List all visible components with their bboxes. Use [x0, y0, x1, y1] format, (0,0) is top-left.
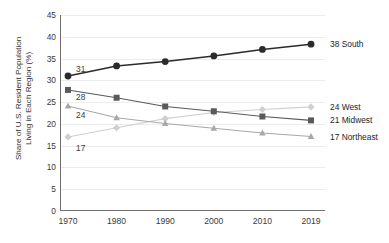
- data-point-west: [64, 133, 71, 140]
- y-axis-tick-label: 20: [30, 119, 56, 129]
- y-axis-title-line-1: Share of U.S. Resident Population: [14, 8, 24, 188]
- data-point-south: [210, 53, 217, 60]
- y-axis-tick-label: 25: [30, 97, 56, 107]
- y-axis-tick-label: 10: [30, 162, 56, 172]
- plot-area: [60, 15, 325, 211]
- data-point-midwest: [308, 117, 314, 123]
- x-axis-tick-label: 2010: [239, 216, 285, 226]
- x-axis-tick-label: 1970: [45, 216, 91, 226]
- data-point-midwest: [162, 103, 168, 109]
- data-point-south: [65, 73, 72, 80]
- data-point-south: [308, 41, 315, 48]
- start-value-label-west: 17: [76, 143, 85, 153]
- y-axis-tick-label: 15: [30, 141, 56, 151]
- legend-item-northeast[interactable]: 17 Northeast: [330, 132, 378, 142]
- data-point-northeast: [65, 103, 72, 109]
- legend-item-midwest[interactable]: 21 Midwest: [330, 115, 372, 125]
- x-axis-tick-label: 2000: [191, 216, 237, 226]
- data-point-south: [113, 63, 120, 70]
- data-point-midwest: [211, 108, 217, 114]
- series-layer: [60, 15, 325, 211]
- data-point-west: [113, 124, 120, 131]
- series-line-northeast: [68, 106, 311, 136]
- data-point-midwest: [259, 113, 265, 119]
- legend-item-west[interactable]: 24 West: [330, 102, 361, 112]
- y-axis-tick-label: 35: [30, 54, 56, 64]
- start-value-label-south: 31: [76, 64, 85, 74]
- data-point-midwest: [65, 87, 71, 93]
- x-axis-tick-label: 1980: [94, 216, 140, 226]
- y-axis-tick-label: 30: [30, 75, 56, 85]
- data-point-south: [259, 46, 266, 53]
- start-value-label-northeast: 24: [76, 110, 85, 120]
- y-axis-tick-label: 45: [30, 10, 56, 20]
- data-point-west: [259, 106, 266, 113]
- data-point-west: [307, 103, 314, 110]
- y-axis-tick-label: 40: [30, 32, 56, 42]
- y-axis-tick-label: 5: [30, 184, 56, 194]
- legend-item-south[interactable]: 38 South: [330, 39, 364, 49]
- data-point-midwest: [114, 95, 120, 101]
- series-line-west: [68, 107, 311, 137]
- y-axis-tick-label: 0: [30, 206, 56, 216]
- line-chart: Share of U.S. Resident Population Living…: [0, 0, 389, 243]
- data-point-south: [162, 58, 169, 65]
- series-line-south: [68, 44, 311, 76]
- x-axis-tick-label: 2019: [288, 216, 334, 226]
- x-axis-tick-label: 1990: [142, 216, 188, 226]
- start-value-label-midwest: 28: [76, 92, 85, 102]
